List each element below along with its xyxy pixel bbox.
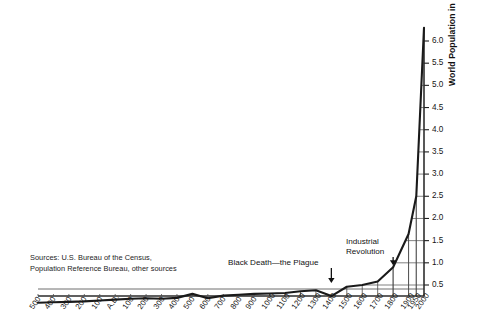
y-tick-label: 6.0 bbox=[432, 36, 443, 45]
annotation-industrial-label-line-1: Industrial bbox=[346, 237, 384, 247]
y-tick-label: 2.0 bbox=[432, 213, 443, 222]
world-population-chart: Sources: U.S. Bureau of the Census, Popu… bbox=[0, 0, 485, 335]
y-tick-label: 2.5 bbox=[432, 191, 443, 200]
y-tick-label: 5.5 bbox=[432, 58, 443, 67]
source-note-line-1: Sources: U.S. Bureau of the Census, bbox=[30, 253, 177, 264]
source-note: Sources: U.S. Bureau of the Census, Popu… bbox=[30, 253, 177, 274]
annotation-arrow-group bbox=[328, 257, 396, 283]
chart-canvas bbox=[0, 0, 485, 335]
y-tick-label: 1.5 bbox=[432, 236, 443, 245]
annotation-black-death: Black Death—the Plague bbox=[228, 258, 318, 268]
y-tick-label: 4.5 bbox=[432, 103, 443, 112]
y-tick-label: 3.5 bbox=[432, 147, 443, 156]
y-tick-label: 1.0 bbox=[432, 258, 443, 267]
annotation-industrial-label-line-2: Revolution bbox=[346, 247, 384, 257]
y-tick-label: 0.5 bbox=[432, 280, 443, 289]
y-tick-label: 4.0 bbox=[432, 125, 443, 134]
source-note-line-2: Population Reference Bureau, other sourc… bbox=[30, 264, 177, 275]
y-tick-group bbox=[424, 28, 429, 296]
annotation-industrial-revolution: Industrial Revolution bbox=[346, 237, 384, 257]
annotation-black-death-label: Black Death—the Plague bbox=[228, 258, 318, 268]
y-tick-label: 5.0 bbox=[432, 80, 443, 89]
y-axis-title: World Population in Billions bbox=[447, 0, 457, 86]
y-tick-label: 3.0 bbox=[432, 169, 443, 178]
